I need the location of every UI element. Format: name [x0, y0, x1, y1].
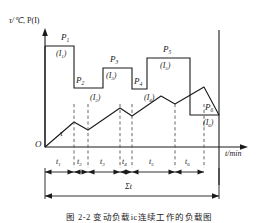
current-label-i6: (I6) [203, 119, 214, 127]
time-label-t6: t6 [185, 158, 190, 166]
i2-sub: 2 [95, 98, 97, 103]
p2-letter: P [76, 75, 82, 85]
p4-letter: P [134, 76, 140, 86]
sigma-arrow-left [45, 193, 52, 198]
p5-sub: 5 [169, 49, 172, 55]
i3-sub: 3 [111, 76, 113, 81]
current-label-i5: (I5) [160, 62, 171, 70]
power-label-p4: P4 [134, 77, 142, 86]
p1-sub: 1 [67, 37, 70, 43]
i6-close: ) [211, 118, 214, 127]
p2-sub: 2 [82, 80, 85, 86]
current-label-i2: (I2) [90, 94, 101, 102]
current-label-i4: (I4) [144, 94, 155, 102]
time-label-t4: t4 [122, 158, 127, 166]
tau-curve-label: τ [60, 130, 63, 138]
current-label-i3: (I3) [106, 72, 117, 80]
t2-sub: 2 [79, 162, 81, 167]
i2-close: ) [98, 93, 101, 102]
p6-sub: 6 [211, 107, 214, 113]
t1-sub: 1 [58, 162, 60, 167]
y-axis-label-rest: , P(I) [23, 16, 39, 25]
i6-sub: 6 [208, 123, 210, 128]
time-label-t5: t5 [149, 158, 154, 166]
t3-sub: 3 [102, 162, 104, 167]
p6-letter: P [205, 102, 211, 112]
total-time-label: Σt [125, 183, 132, 191]
power-label-p3: P3 [110, 55, 118, 64]
sigma-arrow-right [212, 193, 219, 198]
figure-caption: 图 2-2 变动负载ic连续工作的负载图 [0, 210, 279, 222]
i4-sub: 4 [149, 98, 151, 103]
y-axis-arrow [42, 28, 48, 36]
power-label-p6: P6 [205, 103, 213, 112]
time-dimension-arrowheads [45, 170, 204, 175]
power-label-p5: P5 [163, 45, 171, 54]
p4-sub: 4 [140, 81, 143, 87]
load-diagram-svg [0, 0, 279, 223]
p3-sub: 3 [116, 59, 119, 65]
time-label-t3: t3 [100, 158, 105, 166]
power-label-p1: P1 [61, 33, 69, 42]
time-label-t2: t2 [77, 158, 82, 166]
current-label-i1: (I1) [56, 50, 67, 58]
y-axis-label: τ/℃, P(I) [9, 17, 40, 25]
x-axis-arrow [240, 144, 248, 150]
i1-sub: 1 [61, 54, 63, 59]
i1-close: ) [64, 49, 67, 58]
p3-letter: P [110, 54, 116, 64]
origin-label: O [35, 140, 42, 149]
x-axis-label: t/min [225, 150, 241, 158]
t5-sub: 5 [151, 162, 153, 167]
time-label-t1: t1 [56, 158, 61, 166]
i5-sub: 5 [165, 66, 167, 71]
power-label-p2: P2 [76, 76, 84, 85]
t4-sub: 4 [124, 162, 126, 167]
t6-sub: 6 [187, 162, 189, 167]
figure-container: τ/℃, P(I) t/min O τ P1 P2 P3 P4 P5 P6 (I… [0, 0, 279, 223]
p1-letter: P [61, 32, 67, 42]
p5-letter: P [163, 44, 169, 54]
i5-close: ) [168, 61, 171, 70]
i3-close: ) [114, 71, 117, 80]
i4-close: ) [152, 93, 155, 102]
y-axis-label-tau: τ/℃ [9, 16, 23, 25]
